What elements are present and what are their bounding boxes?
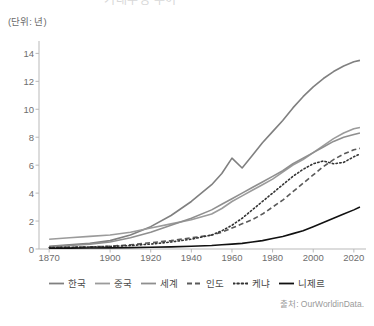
y-axis-tick: 2 — [8, 216, 34, 227]
x-axis-tick: 2020 — [343, 252, 364, 263]
chart-root: 기대수명 추이 (단위: 년) 02468101214 187019001920… — [0, 0, 374, 326]
x-axis-tick: 1900 — [100, 252, 121, 263]
x-axis-tick: 1920 — [140, 252, 161, 263]
legend-item-4[interactable]: 케냐 — [233, 276, 270, 290]
y-axis-tick: 10 — [8, 104, 34, 115]
y-axis-tick-labels: 02468101214 — [0, 0, 34, 272]
y-axis-tick: 14 — [8, 48, 34, 59]
y-axis-tick: 12 — [8, 76, 34, 87]
plot-svg — [0, 0, 374, 272]
legend-label: 니제르 — [298, 276, 325, 290]
legend-label: 중국 — [114, 276, 132, 290]
legend-swatch-icon — [49, 279, 64, 288]
legend-item-2[interactable]: 세계 — [141, 276, 178, 290]
x-axis-tick: 1940 — [181, 252, 202, 263]
legend-label: 케냐 — [252, 276, 270, 290]
legend-swatch-icon — [279, 279, 294, 288]
legend-item-5[interactable]: 니제르 — [279, 276, 325, 290]
legend-label: 세계 — [160, 276, 178, 290]
plot-area — [0, 0, 374, 272]
legend-item-1[interactable]: 중국 — [95, 276, 132, 290]
x-axis-tick: 1960 — [221, 252, 242, 263]
y-axis-tick: 8 — [8, 132, 34, 143]
legend-label: 인도 — [206, 276, 224, 290]
legend-label: 한국 — [68, 276, 86, 290]
source-caption: 출처: OurWorldinData. — [280, 297, 364, 309]
legend-item-0[interactable]: 한국 — [49, 276, 86, 290]
x-axis-tick: 2000 — [303, 252, 324, 263]
y-axis-tick: 4 — [8, 188, 34, 199]
x-axis-tick: 1870 — [39, 252, 60, 263]
series-line-1 — [49, 127, 360, 239]
y-axis-tick: 0 — [8, 244, 34, 255]
legend-swatch-icon — [141, 279, 156, 288]
legend-item-3[interactable]: 인도 — [187, 276, 224, 290]
legend-swatch-icon — [95, 279, 110, 288]
legend-swatch-icon — [233, 279, 248, 288]
chart-legend: 한국중국세계인도케냐니제르 — [0, 272, 374, 294]
y-axis-tick: 6 — [8, 160, 34, 171]
legend-swatch-icon — [187, 279, 202, 288]
series-line-4 — [49, 154, 360, 248]
x-axis-tick: 1980 — [262, 252, 283, 263]
